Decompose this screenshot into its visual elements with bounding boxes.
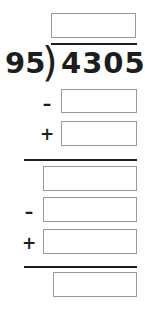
minus-operator-2: –	[22, 204, 36, 221]
quotient-box[interactable]	[51, 13, 136, 38]
bring-down-box-2[interactable]	[43, 229, 137, 254]
separator-rule-1	[24, 159, 137, 161]
remainder-box-1[interactable]	[43, 166, 137, 191]
plus-operator-1: +	[39, 126, 55, 143]
partial-product-box-1[interactable]	[61, 89, 137, 113]
minus-operator-1: –	[40, 96, 54, 113]
dividend: 4305	[61, 49, 145, 78]
division-bracket-icon: )	[42, 42, 58, 82]
final-remainder-box[interactable]	[53, 272, 137, 297]
separator-rule-2	[24, 266, 137, 268]
bring-down-box-1[interactable]	[61, 121, 137, 146]
plus-operator-2: +	[21, 235, 37, 252]
divisor: 95	[5, 49, 45, 78]
division-bar	[51, 43, 137, 45]
partial-product-box-2[interactable]	[43, 197, 137, 222]
long-division-worksheet: 95 ) 4305 – + – +	[0, 0, 145, 310]
